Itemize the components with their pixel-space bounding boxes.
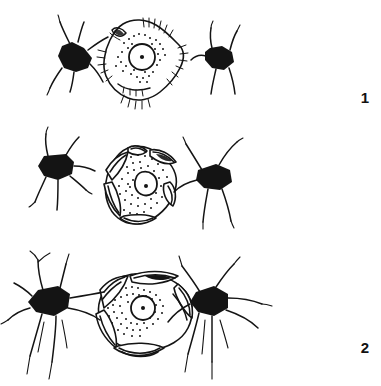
panel-2-central-cell <box>104 146 176 224</box>
panel-3-drawing <box>0 250 381 386</box>
panel-1-right-stellate-cell <box>191 21 240 94</box>
panel-3-left-stellate-cell <box>1 251 104 379</box>
figure-root: 1 <box>0 0 381 386</box>
figure-panel-1: 1 <box>0 0 381 128</box>
panel-1-central-cell <box>97 18 188 109</box>
panel-2-right-stellate-cell <box>174 137 243 229</box>
panel-3-central-cell <box>96 272 192 357</box>
panel-2-left-stellate-cell <box>29 127 95 210</box>
panel-label-1: 1 <box>361 90 369 105</box>
figure-panel-3: 3 <box>0 250 381 386</box>
figure-panel-2: 2 <box>0 126 381 254</box>
panel-2-drawing <box>0 126 381 254</box>
panel-1-drawing <box>0 0 381 128</box>
panel-1-left-stellate-cell <box>47 15 108 95</box>
